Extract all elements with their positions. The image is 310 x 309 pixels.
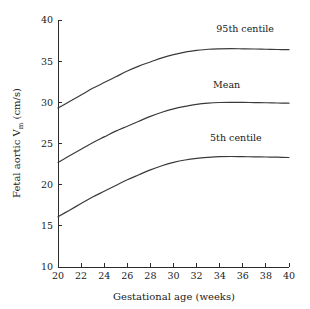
y-axis-ticks	[58, 20, 62, 267]
y-tick-label: 20	[41, 179, 53, 190]
y-tick-label: 40	[41, 14, 53, 25]
y-axis-title: Fetal aortic Vm (cm/s)	[11, 88, 25, 198]
x-axis-title: Gestational age (weeks)	[113, 291, 235, 302]
x-tick-label: 30	[167, 270, 179, 281]
curve-label-5th-centile: 5th centile	[210, 132, 262, 143]
x-axis-ticks	[58, 263, 289, 267]
curve-label-95th-centile: 95th centile	[216, 23, 274, 34]
y-tick-label: 35	[41, 56, 53, 67]
x-tick-label: 22	[75, 270, 87, 281]
fetal-aortic-velocity-chart: 10152025303540 2022242628303234363840 95…	[0, 0, 310, 309]
x-axis-tick-labels: 2022242628303234363840	[52, 270, 295, 281]
curve-annotations: 95th centileMean5th centile	[210, 23, 274, 143]
x-tick-label: 40	[283, 270, 295, 281]
x-tick-label: 36	[237, 270, 249, 281]
x-tick-label: 32	[191, 270, 203, 281]
x-tick-label: 24	[98, 270, 110, 281]
x-tick-label: 26	[121, 270, 133, 281]
axes	[58, 20, 289, 267]
y-axis-title-unit: (cm/s)	[11, 88, 22, 123]
y-tick-label: 25	[41, 138, 53, 149]
y-axis-tick-labels: 10152025303540	[41, 14, 53, 272]
x-tick-label: 20	[52, 270, 64, 281]
curve-5th-centile	[58, 157, 289, 217]
x-tick-label: 34	[214, 270, 226, 281]
curve-95th-centile	[58, 49, 289, 108]
x-tick-label: 28	[144, 270, 156, 281]
y-tick-label: 30	[41, 97, 53, 108]
y-tick-label: 15	[41, 220, 53, 231]
curve-label-mean: Mean	[213, 79, 240, 90]
x-tick-label: 38	[260, 270, 272, 281]
chart-figure: 10152025303540 2022242628303234363840 95…	[0, 0, 310, 309]
y-axis-title-main: Fetal aortic V	[11, 129, 22, 198]
